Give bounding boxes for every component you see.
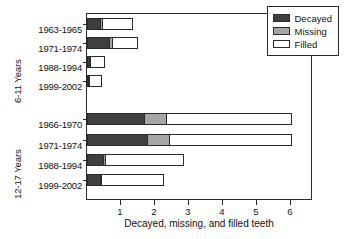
bar-1988-1994 <box>87 56 105 68</box>
x-tick-label: 3 <box>178 206 198 217</box>
bar-1971-1974 <box>87 134 292 146</box>
bar-segment-filled <box>112 37 137 49</box>
legend-item-decayed: Decayed <box>273 12 333 24</box>
x-axis-label: Decayed, missing, and filled teeth <box>86 218 312 229</box>
legend-label-decayed: Decayed <box>295 13 333 24</box>
x-tick <box>290 200 291 205</box>
category-label-1999-2002-6-11: 1999-2002 <box>26 81 82 92</box>
bar-1988-1994 <box>87 154 184 166</box>
x-tick <box>120 200 121 205</box>
chart-legend: Decayed Missing Filled <box>267 6 340 56</box>
bar-segment-filled <box>90 56 105 68</box>
legend-item-filled: Filled <box>273 38 333 50</box>
category-label-1988-1994-6-11: 1988-1994 <box>26 62 82 73</box>
legend-label-missing: Missing <box>295 26 327 37</box>
bar-segment-missing <box>147 134 170 146</box>
y-tick <box>83 43 87 44</box>
y-tick <box>83 24 87 25</box>
bar-1971-1974 <box>87 37 138 49</box>
category-label-1963-1965: 1963-1965 <box>26 24 82 35</box>
legend-swatch-missing <box>273 27 290 35</box>
bar-segment-missing <box>144 113 167 125</box>
bar-segment-filled <box>169 134 292 146</box>
group-axis-title-6-11-years: 6-11 Years <box>12 59 23 103</box>
legend-label-filled: Filled <box>295 39 318 50</box>
y-tick <box>83 119 87 120</box>
y-tick <box>83 180 87 181</box>
bar-segment-decayed <box>87 37 110 49</box>
bar-1999-2002 <box>87 174 164 186</box>
y-tick <box>83 62 87 63</box>
x-tick <box>256 200 257 205</box>
category-label-1966-1970: 1966-1970 <box>26 119 82 130</box>
legend-swatch-decayed <box>273 14 290 22</box>
category-label-1988-1994-12-17: 1988-1994 <box>26 160 82 171</box>
y-tick <box>83 160 87 161</box>
x-tick-label: 2 <box>144 206 164 217</box>
bar-segment-decayed <box>87 113 145 125</box>
x-tick-label: 1 <box>110 206 130 217</box>
bar-1963-1965 <box>87 18 133 30</box>
legend-item-missing: Missing <box>273 25 333 37</box>
group-axis-title-12-17-years: 12-17 Years <box>12 149 23 199</box>
bar-1966-1970 <box>87 113 292 125</box>
x-tick-label: 5 <box>246 206 266 217</box>
bar-segment-filled <box>166 113 292 125</box>
bar-segment-decayed <box>87 134 148 146</box>
legend-swatch-filled <box>273 40 290 48</box>
y-tick <box>83 81 87 82</box>
category-label-1999-2002-12-17: 1999-2002 <box>26 180 82 191</box>
bar-segment-decayed <box>87 154 104 166</box>
bar-segment-filled <box>101 174 164 186</box>
y-tick <box>83 140 87 141</box>
bar-segment-filled <box>102 18 133 30</box>
bar-segment-decayed <box>87 18 101 30</box>
category-label-1971-1974-6-11: 1971-1974 <box>26 43 82 54</box>
bar-segment-filled <box>89 75 102 87</box>
bar-segment-decayed <box>87 174 101 186</box>
x-tick <box>154 200 155 205</box>
x-tick-label: 6 <box>280 206 300 217</box>
category-label-1971-1974-12-17: 1971-1974 <box>26 140 82 151</box>
bar-1999-2002 <box>87 75 102 87</box>
x-tick-label: 4 <box>212 206 232 217</box>
x-tick <box>222 200 223 205</box>
x-tick <box>188 200 189 205</box>
chart-figure: 6-11 Years 12-17 Years 1963-1965 1971-19… <box>0 0 345 239</box>
bar-segment-filled <box>105 154 184 166</box>
